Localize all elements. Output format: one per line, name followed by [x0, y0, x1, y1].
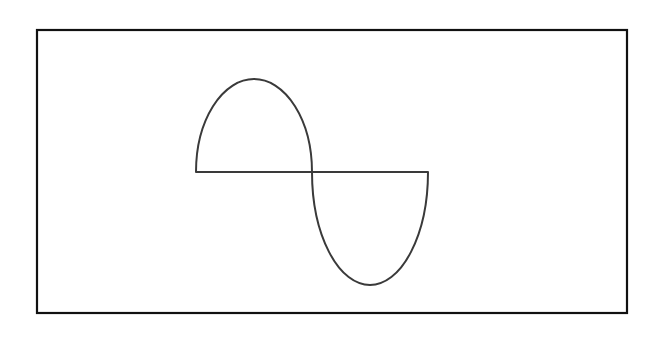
lower-half-ellipse-curve: [312, 172, 428, 285]
diagram-canvas: [0, 0, 662, 337]
upper-half-ellipse-curve: [196, 79, 312, 172]
